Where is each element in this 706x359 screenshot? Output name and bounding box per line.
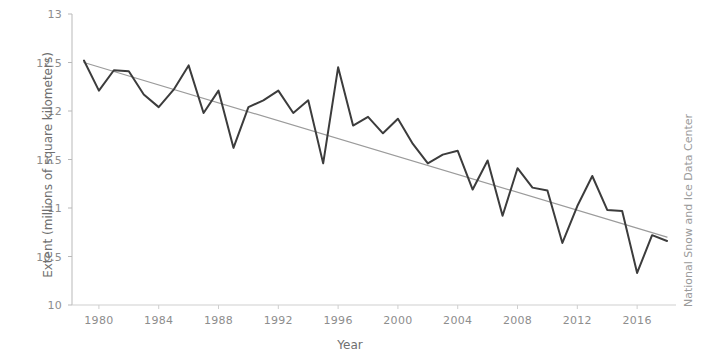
axis-lines — [72, 14, 676, 305]
data-source-credit: National Snow and Ice Data Center — [682, 106, 695, 316]
trend-line-series — [84, 63, 667, 238]
y-tick-label: 12 — [18, 105, 62, 118]
y-axis-title: Extent (millions of square kilometers) — [41, 40, 55, 290]
x-tick-label: 1980 — [84, 314, 113, 327]
x-tick-label: 2008 — [503, 314, 532, 327]
x-tick-label: 2004 — [443, 314, 472, 327]
x-tick-label: 1996 — [324, 314, 353, 327]
y-tick-label: 11.5 — [18, 153, 62, 166]
chart-plot-area — [0, 0, 706, 359]
sea-ice-extent-chart: 1010.51111.51212.513 1980198419881992199… — [0, 0, 706, 359]
x-tick-label: 1984 — [144, 314, 173, 327]
y-tick-label: 12.5 — [18, 56, 62, 69]
x-tick-label: 1992 — [264, 314, 293, 327]
axis-tick-marks — [68, 14, 637, 309]
y-tick-label: 10.5 — [18, 250, 62, 263]
x-tick-label: 2012 — [563, 314, 592, 327]
sea-ice-extent-series — [84, 61, 667, 273]
x-tick-label: 2000 — [383, 314, 412, 327]
y-tick-label: 11 — [18, 202, 62, 215]
x-tick-label: 2016 — [623, 314, 652, 327]
x-tick-label: 1988 — [204, 314, 233, 327]
y-tick-label: 10 — [18, 299, 62, 312]
y-tick-label: 13 — [18, 8, 62, 21]
x-axis-title: Year — [0, 338, 700, 352]
